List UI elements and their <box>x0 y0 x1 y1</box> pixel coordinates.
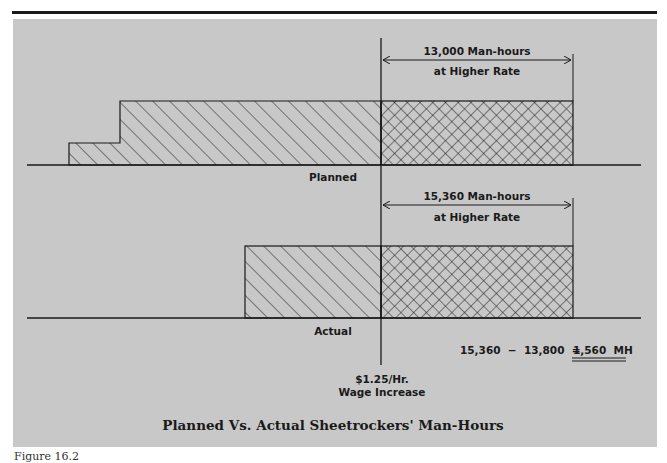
actual-dimension-note: at Higher Rate <box>434 211 520 223</box>
planned-higher-rate-area <box>381 101 573 165</box>
actual-normal-rate-area <box>245 246 381 318</box>
equation-lhs: 15,360 − 13,800 = <box>460 344 581 356</box>
actual-dimension-value: 15,360 Man-hours <box>423 190 530 202</box>
actual-higher-rate-area <box>381 246 573 318</box>
planned-dimension-value: 13,000 Man-hours <box>423 45 530 57</box>
actual-section: 15,360 Man-hours at Higher Rate Actual <box>27 190 641 337</box>
wage-increase-label: Wage Increase <box>339 386 426 398</box>
actual-label: Actual <box>314 325 352 337</box>
planned-normal-rate-area <box>69 101 381 165</box>
wage-rate-label: $1.25/Hr. <box>355 373 409 385</box>
equation-result: 1,560 MH <box>573 344 633 356</box>
planned-section: 13,000 Man-hours at Higher Rate Planned <box>27 45 641 183</box>
figure-caption: Figure 16.2 <box>14 451 79 462</box>
planned-label: Planned <box>309 171 357 183</box>
planned-dimension-note: at Higher Rate <box>434 65 520 77</box>
figure-title: Planned Vs. Actual Sheetrockers' Man-Hou… <box>162 417 504 433</box>
